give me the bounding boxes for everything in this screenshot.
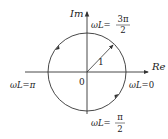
unit-circle-diagram: Im Re 0 1 ωL=0 ωL=π ωL= 3π 2 ωL= π 2 [0, 0, 168, 139]
y-axis-label: Im [69, 8, 83, 19]
point-label-pi: ωL=π [10, 80, 36, 90]
fraction-numerator: π [117, 112, 123, 122]
point-label-three-half-pi: ωL= [91, 20, 111, 30]
point-label-zero: ωL=0 [129, 80, 154, 90]
x-axis-label: Re [151, 61, 166, 72]
fraction-numerator: 3π [118, 14, 129, 24]
fraction-denominator: 2 [120, 25, 125, 35]
radius-label: 1 [98, 57, 104, 67]
origin-label: 0 [79, 77, 85, 87]
fraction-denominator: 2 [117, 124, 122, 134]
point-label-half-pi: ωL= [91, 118, 111, 128]
